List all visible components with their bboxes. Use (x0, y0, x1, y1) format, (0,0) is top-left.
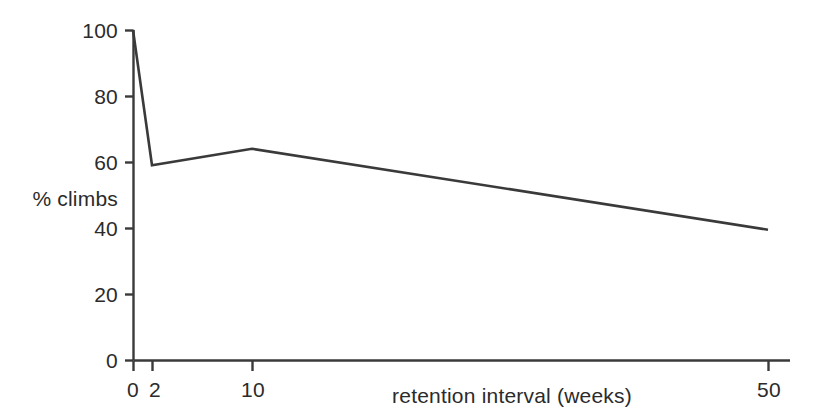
y-tick-label-40: 40 (62, 218, 118, 239)
y-axis-title: % climbs (18, 188, 118, 209)
chart-figure: 100 80 60 40 20 0 % climbs 0 2 10 50 ret… (0, 0, 814, 418)
y-axis-ticks (125, 31, 134, 361)
chart-plot-area (0, 0, 814, 418)
x-axis-title: retention interval (weeks) (392, 385, 632, 406)
y-tick-label-0: 0 (62, 350, 118, 371)
y-tick-label-100: 100 (62, 20, 118, 41)
y-tick-label-60: 60 (62, 152, 118, 173)
x-tick-label-50: 50 (757, 379, 781, 400)
x-axis-ticks (134, 361, 769, 372)
x-tick-label-2: 2 (149, 379, 161, 400)
data-series-line (133, 30, 768, 230)
x-tick-label-0: 0 (127, 379, 139, 400)
y-tick-label-80: 80 (62, 86, 118, 107)
y-tick-label-20: 20 (62, 284, 118, 305)
x-tick-label-10: 10 (241, 379, 265, 400)
